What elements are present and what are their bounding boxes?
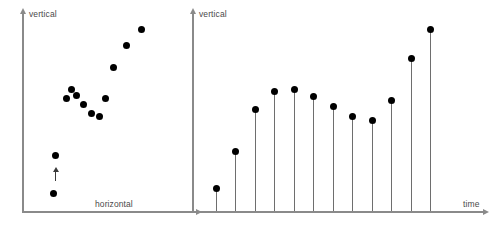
scatter-point [50,190,57,197]
scatter-point [80,101,87,108]
stem-marker [232,148,239,155]
scatter-x-axis-label: horizontal [95,199,133,209]
stem-marker [271,88,278,95]
figure-root: vertical horizontal vertical time [0,0,502,236]
stem-marker [310,93,317,100]
stem-line [352,117,353,211]
stem-marker [349,113,356,120]
stem-marker [252,106,259,113]
stem-marker [213,185,220,192]
stem-line [255,110,256,211]
stem-line [372,121,373,211]
scatter-point [73,92,80,99]
stem-marker [291,86,298,93]
stem-line [313,97,314,211]
scatter-point [96,113,103,120]
scatter-point [63,95,70,102]
scatter-point [102,95,109,102]
stem-plot-panel: vertical time [180,0,502,236]
scatter-y-axis-line [22,14,24,211]
stem-marker [330,103,337,110]
stem-marker [369,117,376,124]
stem-y-axis-line [192,14,194,211]
scatter-y-axis-label: vertical [29,9,57,19]
scatter-point [110,64,117,71]
scatter-x-axis-line [22,211,196,213]
scatter-y-axis-arrowhead-icon [20,8,26,14]
annotation-arrow-shaft [55,170,56,181]
stem-marker [388,97,395,104]
scatter-point [123,42,130,49]
scatter-point [138,26,145,33]
scatter-point [52,152,59,159]
stem-line [411,58,412,211]
stem-line [333,106,334,211]
stem-marker [408,55,415,62]
stem-x-axis-line [192,211,483,213]
stem-line [391,101,392,211]
stem-y-axis-arrowhead-icon [190,8,196,14]
stem-x-axis-arrowhead-icon [483,209,489,215]
stem-line [430,29,431,211]
stem-line [235,152,236,211]
stem-line [294,90,295,211]
stem-y-axis-label: vertical [199,9,227,19]
stem-marker [427,26,434,33]
stem-line [274,91,275,211]
stem-plot-area: vertical time [180,0,502,236]
annotation-up-arrow-icon [52,167,59,181]
stem-x-axis-label: time [463,199,479,209]
scatter-point [88,110,95,117]
